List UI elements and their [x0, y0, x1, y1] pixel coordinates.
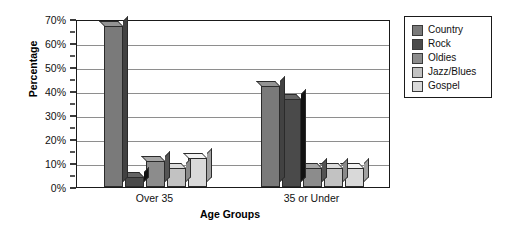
- legend-item-oldies: Oldies: [412, 51, 491, 65]
- bar-face: [125, 177, 144, 187]
- legend-swatch-icon: [412, 25, 423, 36]
- bar-side: [280, 76, 285, 182]
- legend: CountryRockOldiesJazz/BluesGospel: [404, 16, 492, 98]
- legend-swatch-icon: [412, 67, 423, 78]
- y-axis-label: 10%: [24, 159, 66, 169]
- y-axis-label: 70%: [24, 15, 66, 25]
- y-axis-label: 30%: [24, 111, 66, 121]
- legend-item-country: Country: [412, 23, 491, 37]
- legend-label: Gospel: [428, 80, 460, 92]
- y-axis-label: 0%: [24, 183, 66, 193]
- y-axis-tick-minor: [70, 175, 75, 176]
- bar-side: [123, 16, 128, 182]
- y-axis-tick-minor: [70, 55, 75, 56]
- y-axis-label: 60%: [24, 39, 66, 49]
- bar-rock-over-35: [125, 177, 144, 187]
- legend-label: Country: [428, 24, 463, 36]
- y-axis-label: 50%: [24, 63, 66, 73]
- x-axis-title: Age Groups: [150, 208, 310, 220]
- bar-country-over-35: [104, 26, 123, 187]
- x-axis-label-35-or-under: 35 or Under: [257, 192, 367, 204]
- bar-chart: Percentage 0%10%20%30%40%50%60%70% Over …: [0, 0, 505, 229]
- legend-label: Oldies: [428, 52, 456, 64]
- legend-swatch-icon: [412, 53, 423, 64]
- legend-item-gospel: Gospel: [412, 79, 491, 93]
- y-axis-label: 20%: [24, 135, 66, 145]
- bar-side: [301, 89, 306, 182]
- bar-country-35-or-under: [261, 86, 280, 187]
- legend-label: Jazz/Blues: [428, 66, 476, 78]
- legend-item-rock: Rock: [412, 37, 491, 51]
- bar-side: [207, 148, 212, 182]
- y-axis-tick-minor: [70, 31, 75, 32]
- bar-side: [165, 151, 170, 182]
- legend-swatch-icon: [412, 81, 423, 92]
- y-axis-tick-minor: [70, 151, 75, 152]
- legend-item-jazz-blues: Jazz/Blues: [412, 65, 491, 79]
- y-axis-label: 40%: [24, 87, 66, 97]
- y-axis-tick-minor: [70, 79, 75, 80]
- bar-face: [261, 86, 280, 187]
- legend-label: Rock: [428, 38, 451, 50]
- legend-swatch-icon: [412, 39, 423, 50]
- x-axis-label-over-35: Over 35: [100, 192, 210, 204]
- y-axis-tick-minor: [70, 103, 75, 104]
- bar-face: [104, 26, 123, 187]
- plot-area: [76, 20, 390, 188]
- y-axis-tick-minor: [70, 127, 75, 128]
- bar-side: [364, 158, 369, 182]
